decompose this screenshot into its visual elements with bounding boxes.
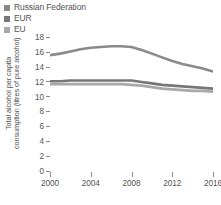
plot-area: Total alcohol per capita consumption (li…: [0, 38, 221, 205]
x-axis-tick-mark: [91, 172, 92, 177]
y-axis-tick-label: 12: [35, 78, 50, 88]
chart-canvas: [50, 38, 213, 172]
y-axis-tick-label: 18: [35, 33, 50, 43]
y-axis-tick-label: 14: [35, 63, 50, 73]
square-marker-icon: [4, 5, 10, 11]
square-marker-icon: [4, 16, 10, 22]
y-axis-ticks: 181614121086420: [26, 38, 50, 172]
series-line: [50, 46, 213, 71]
x-axis-tick-label: 2008: [115, 179, 149, 189]
x-axis-tick-label: 2000: [33, 179, 67, 189]
y-axis-tick-label: 10: [35, 93, 50, 103]
y-axis-tick-label: 0: [39, 167, 50, 177]
legend-item-label: Russian Federation: [14, 2, 86, 13]
x-axis-ticks: 20002004200820122016: [50, 172, 213, 202]
y-axis-tick-label: 2: [39, 152, 50, 162]
chart-figure: Russian Federation EUR EU Total alcohol …: [0, 0, 221, 205]
y-axis-tick-label: 4: [39, 137, 50, 147]
legend-item-eur: EUR: [4, 13, 204, 24]
x-axis-tick-mark: [132, 172, 133, 177]
y-axis-tick-label: 6: [39, 122, 50, 132]
legend-item-label: EUR: [14, 13, 32, 24]
x-axis-tick-mark: [213, 172, 214, 177]
x-axis-tick-label: 2012: [155, 179, 189, 189]
x-axis-tick-label: 2004: [74, 179, 108, 189]
y-axis-tick-label: 16: [35, 48, 50, 58]
legend-item-russian-federation: Russian Federation: [4, 2, 204, 13]
series-lines: [50, 38, 213, 172]
y-axis-title: Total alcohol per capita consumption (li…: [5, 27, 22, 159]
y-axis-tick-label: 8: [39, 107, 50, 117]
x-axis-tick-mark: [172, 172, 173, 177]
chart-legend: Russian Federation EUR EU: [4, 2, 204, 35]
x-axis-tick-mark: [50, 172, 51, 177]
x-axis-tick-label: 2016: [196, 179, 221, 189]
y-axis-title-line2: consumption (litres of pure alcohol): [12, 38, 21, 149]
